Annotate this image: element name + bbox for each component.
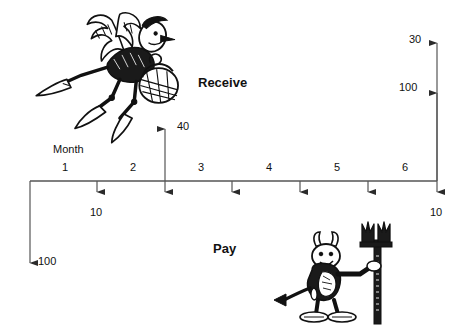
receive-section-label: Receive <box>198 77 247 89</box>
tick-label-month-6: 6 <box>402 161 408 173</box>
tick-label-month-5: 5 <box>334 161 340 173</box>
axis-title-month: Month <box>53 143 84 155</box>
value-label-receive-30: 30 <box>409 33 421 45</box>
tick-label-month-4: 4 <box>266 161 272 173</box>
running-angel-illustration <box>36 13 178 143</box>
cash-flow-timeline-figure: Month 1 2 3 4 5 6 10 10 100 40 100 30 Re… <box>0 0 469 328</box>
value-label-receive-100: 100 <box>399 81 417 93</box>
value-label-receive-40: 40 <box>177 120 189 132</box>
tick-label-month-2: 2 <box>130 161 136 173</box>
tick-label-month-1: 1 <box>62 161 68 173</box>
devil-illustration <box>274 222 392 324</box>
pay-section-label: Pay <box>213 243 236 255</box>
value-label-pay-10-last: 10 <box>430 206 442 218</box>
value-label-pay-10-first: 10 <box>90 206 102 218</box>
tick-label-month-3: 3 <box>198 161 204 173</box>
value-label-pay-100: 100 <box>38 255 56 267</box>
timeline-graphic <box>0 0 469 328</box>
